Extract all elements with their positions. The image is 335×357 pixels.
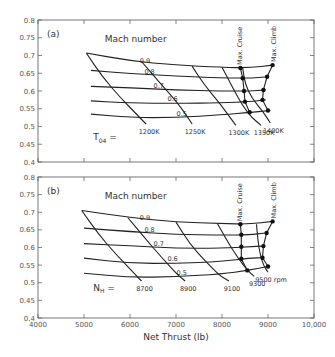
max-climb-point: [260, 98, 264, 102]
max-climb-point: [260, 256, 264, 260]
y-tick-label: 0.75: [19, 34, 35, 42]
y-tick-label: 0.8: [24, 174, 35, 182]
max-climb-line: [263, 65, 273, 110]
mach-label-0.9: 0.9: [140, 57, 150, 65]
y-tick-label: 0.5: [24, 123, 35, 131]
y-tick-label: 0.7: [24, 52, 35, 60]
mach-label-0.7: 0.7: [154, 240, 164, 248]
x-tick-label: 10,000: [302, 321, 327, 329]
y-tick-label: 0.45: [19, 141, 35, 149]
panel-label: (a): [47, 29, 60, 39]
y-tick-label: 0.55: [19, 105, 35, 113]
y-tick-label: 0.4: [24, 159, 36, 167]
mach-line-0.7: [84, 244, 263, 249]
chart-panel-a: 0.40.450.50.550.60.650.70.750.80.90.80.7…: [19, 17, 314, 167]
param-label-1250K: 1250K: [185, 128, 207, 136]
x-tick-label: 6000: [121, 321, 139, 329]
x-axis-title: Net Thrust (lb): [143, 332, 209, 342]
mach-label-0.6: 0.6: [167, 255, 177, 263]
y-tick-label: 0.5: [24, 279, 35, 287]
max-climb-point: [270, 219, 274, 223]
mach-line-0.9: [86, 53, 272, 68]
y-tick-label: 0.65: [19, 70, 35, 78]
max-climb-label: Max. Climb: [270, 182, 278, 218]
param-label-1400K: 1400K: [263, 127, 285, 135]
max-cruise-label: Max. Cruise: [236, 183, 244, 221]
x-tick-label: 7000: [167, 321, 185, 329]
max-cruise-point: [238, 66, 242, 70]
y-tick-label: 0.7: [24, 209, 35, 217]
max-climb-point: [264, 231, 268, 235]
y-tick-label: 0.55: [19, 262, 35, 270]
param-label-1300K: 1300K: [228, 129, 250, 137]
mach-label-0.8: 0.8: [144, 226, 154, 234]
panel-label: (b): [47, 186, 60, 196]
max-cruise-point: [238, 222, 242, 226]
max-cruise-point: [243, 99, 247, 103]
parameter-name-label: NH =: [93, 283, 115, 295]
x-tick-label: 5000: [75, 321, 93, 329]
x-tick-label: 8000: [213, 321, 231, 329]
param-label-9500-rpm: 9500 rpm: [255, 276, 287, 284]
max-cruise-label: Max. Cruise: [236, 27, 244, 65]
param-line-9300: [217, 224, 254, 277]
max-climb-point: [266, 264, 270, 268]
y-tick-label: 0.8: [24, 17, 35, 25]
chart-figure: 0.40.450.50.550.60.650.70.750.80.90.80.7…: [0, 0, 335, 357]
max-climb-point: [270, 63, 274, 67]
mach-line-0.7: [91, 86, 266, 91]
max-cruise-point: [239, 257, 243, 261]
max-cruise-point: [247, 110, 251, 114]
param-label-8700: 8700: [136, 285, 153, 293]
chart-panel-b: 0.40.450.50.550.60.650.70.750.8400050006…: [19, 174, 326, 343]
parameter-name-label: T04 =: [92, 132, 117, 144]
max-climb-point: [261, 88, 265, 92]
max-cruise-point: [241, 76, 245, 80]
max-climb-point: [261, 244, 265, 248]
param-label-1200K: 1200K: [139, 128, 161, 136]
max-climb-line: [263, 221, 273, 266]
y-tick-label: 0.65: [19, 226, 35, 234]
param-label-9100: 9100: [224, 285, 241, 293]
param-label-8900: 8900: [180, 285, 197, 293]
max-cruise-point: [239, 233, 243, 237]
max-cruise-point: [239, 245, 243, 249]
y-tick-label: 0.6: [24, 88, 36, 96]
max-cruise-point: [245, 268, 249, 272]
mach-line-0.8: [84, 228, 266, 235]
max-climb-point: [266, 108, 270, 112]
y-tick-label: 0.45: [19, 297, 35, 305]
max-climb-point: [265, 75, 269, 79]
param-line-1350K: [222, 67, 261, 125]
x-tick-label: 9000: [259, 321, 277, 329]
x-tick-label: 4000: [29, 321, 47, 329]
max-cruise-point: [242, 89, 246, 93]
y-tick-label: 0.6: [24, 244, 36, 252]
max-climb-label: Max. Climb: [270, 26, 278, 62]
y-tick-label: 0.75: [19, 191, 35, 199]
mach-number-title: Mach number: [105, 191, 167, 201]
mach-number-title: Mach number: [105, 34, 167, 44]
mach-label-0.9: 0.9: [140, 214, 150, 222]
